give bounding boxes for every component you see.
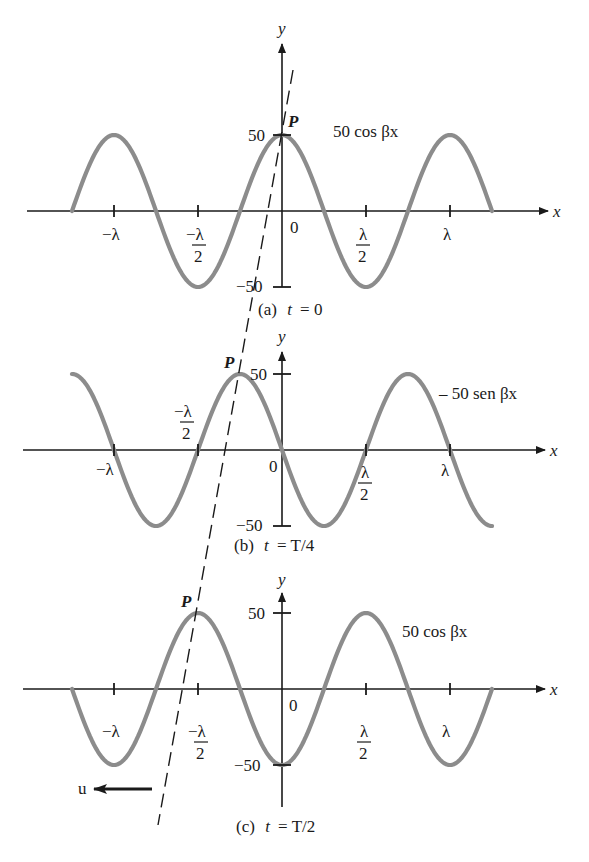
velocity-arrow: u [78,779,152,798]
origin-label: 0 [289,696,298,715]
tick-label-minus-lambda: −λ [96,460,115,479]
tick-label-minus-lambda: −λ [102,225,121,244]
svg-text:λ: λ [359,225,368,244]
y-tick-label-50: 50 [250,365,267,384]
function-label: 50 cos βx [402,622,468,641]
x-axis-label: x [549,680,558,699]
point-p-label: P [180,592,192,611]
constant-phase-dashed-line [158,70,293,825]
svg-text:2: 2 [182,424,191,443]
origin-label: 0 [269,457,278,476]
point-p-label: P [287,112,299,131]
y-tick-label-50: 50 [248,126,265,145]
panel-c: y x 50 −50 P 50 cos βx 0 −λ −λ 2 λ 2 λ u… [23,570,558,836]
point-p-label: P [223,353,235,372]
svg-text:2: 2 [359,744,368,763]
function-label: – 50 sen βx [438,384,518,403]
x-axis-label: x [549,441,558,460]
tick-label-lambda: λ [441,461,450,480]
origin-label: 0 [290,218,299,237]
velocity-label: u [78,779,87,798]
y-axis-label: y [276,327,286,346]
svg-text:2: 2 [358,247,367,266]
panel-caption: (c) t = T/2 [236,817,315,836]
function-label: 50 cos βx [333,122,399,141]
y-axis-label: y [276,570,286,589]
tick-label-lambda: λ [442,722,451,741]
tick-label-minus-half-lambda: −λ 2 [186,225,206,266]
panel-caption: (b) t = T/4 [234,536,315,555]
tick-label-half-lambda: λ 2 [358,463,372,504]
tick-label-minus-half-lambda: −λ 2 [188,722,208,763]
x-axis-label: x [552,202,561,221]
y-axis-label: y [276,19,286,38]
y-tick-label-minus-50: −50 [234,756,261,775]
svg-text:−λ: −λ [174,402,193,421]
tick-label-minus-lambda: −λ [102,722,121,741]
tick-label-half-lambda: λ 2 [356,225,370,266]
panel-a: y x 50 −50 P 50 cos βx 0 −λ −λ 2 λ 2 λ (… [27,19,561,319]
tick-label-minus-half-lambda: −λ 2 [174,402,194,443]
tick-label-lambda: λ [443,225,452,244]
y-tick-label-minus-50: −50 [236,516,263,535]
svg-text:−λ: −λ [186,225,205,244]
svg-text:2: 2 [196,744,205,763]
panel-caption: (a) t = 0 [258,300,322,319]
svg-text:λ: λ [360,722,369,741]
svg-text:2: 2 [194,247,203,266]
svg-text:2: 2 [360,485,369,504]
y-tick-label-50: 50 [248,604,265,623]
svg-text:λ: λ [361,463,370,482]
panel-b: y x 50 −50 P – 50 sen βx 0 −λ −λ 2 λ 2 λ… [23,327,558,555]
svg-text:−λ: −λ [188,722,207,741]
y-tick-label-minus-50: −50 [236,277,263,296]
traveling-wave-figure: y x 50 −50 P 50 cos βx 0 −λ −λ 2 λ 2 λ (… [0,0,589,862]
tick-label-half-lambda: λ 2 [357,722,371,763]
